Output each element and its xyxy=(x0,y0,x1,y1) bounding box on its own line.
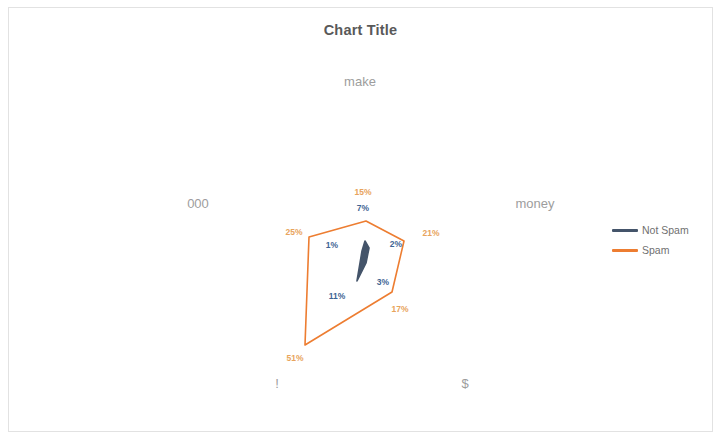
data-label-not-spam-money: 2% xyxy=(376,239,416,249)
legend-label-not-spam: Not Spam xyxy=(642,224,689,236)
legend-item-not-spam[interactable]: Not Spam xyxy=(612,222,712,238)
legend-swatch-spam-icon xyxy=(612,249,638,252)
legend-label-spam: Spam xyxy=(642,244,669,256)
axis-label-zeros: 000 xyxy=(143,196,253,211)
chart-container: Chart Title make money $ ! 000 15% 21% 1… xyxy=(0,0,721,447)
data-label-not-spam-dollar: 3% xyxy=(363,277,403,287)
data-label-not-spam-exclamation: 11% xyxy=(312,291,362,301)
axis-label-dollar: $ xyxy=(410,376,520,391)
data-label-spam-money: 21% xyxy=(406,228,456,238)
data-label-not-spam-make: 7% xyxy=(338,203,388,213)
chart-plot-border xyxy=(8,7,713,432)
data-label-spam-make: 15% xyxy=(338,187,388,197)
axis-label-make: make xyxy=(305,74,415,89)
legend-item-spam[interactable]: Spam xyxy=(612,242,712,258)
data-label-spam-exclamation: 51% xyxy=(270,353,320,363)
data-label-spam-zeros: 25% xyxy=(269,227,319,237)
axis-label-money: money xyxy=(480,196,590,211)
legend-swatch-not-spam-icon xyxy=(612,229,638,232)
data-label-spam-dollar: 17% xyxy=(375,304,425,314)
axis-label-exclamation: ! xyxy=(222,376,332,391)
data-label-not-spam-zeros: 1% xyxy=(312,240,352,250)
chart-title: Chart Title xyxy=(0,22,721,38)
chart-legend: Not Spam Spam xyxy=(612,222,712,262)
